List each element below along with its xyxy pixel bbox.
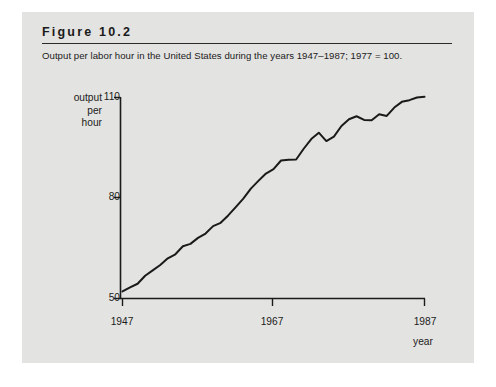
chart-plot-area: output per hour 110 80 50 1947 1967 1987… [22,12,474,363]
axes-group [114,97,425,306]
chart-svg [22,12,474,363]
data-series-line [123,97,425,292]
figure-panel: Figure 10.2 Output per labor hour in the… [22,12,474,363]
